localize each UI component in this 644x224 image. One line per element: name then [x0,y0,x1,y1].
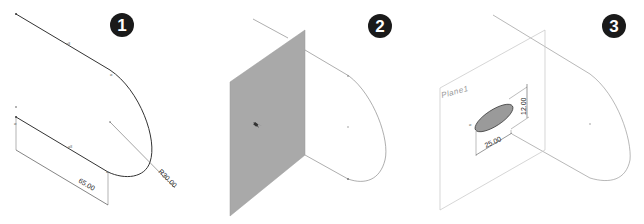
step-2-panel: 2 [230,14,392,216]
step-1-panel: 1 ⌀3 ⌀ ⌀3 ⌀ ⌀ R30.00 65.00 [14,13,178,205]
svg-text:⌀: ⌀ [469,122,472,127]
path-curve [348,76,386,181]
diagram-canvas: 1 ⌀3 ⌀ ⌀3 ⌀ ⌀ R30.00 65.00 2 [0,0,644,224]
normal-plane [230,30,305,216]
major-axis-dimension: 25.00 [483,135,502,149]
path-curve-3 [590,74,630,181]
svg-text:⌀3: ⌀3 [66,41,71,46]
minor-axis-dimension: 12.00 [520,97,527,115]
length-dimension-line [16,150,108,205]
path-lower-line [16,117,108,172]
path-arc [108,70,152,177]
svg-text:⌀3: ⌀3 [68,144,73,149]
svg-text:⌀: ⌀ [14,121,17,126]
step-3-number: 3 [609,17,618,36]
step-2-number: 2 [375,17,384,36]
svg-text:⌀: ⌀ [110,72,113,77]
length-dimension: 65.00 [77,177,96,192]
step-1-number: 1 [117,16,126,35]
path-upper-line [16,14,110,70]
radius-dimension: R30.00 [157,168,178,189]
plane-label: Plane1 [440,84,469,100]
svg-text:⌀: ⌀ [106,169,109,174]
sketch-ellipse [471,99,517,136]
step-3-panel: 3 Plane1 ⌀ 12.00 25.00 [440,14,630,210]
